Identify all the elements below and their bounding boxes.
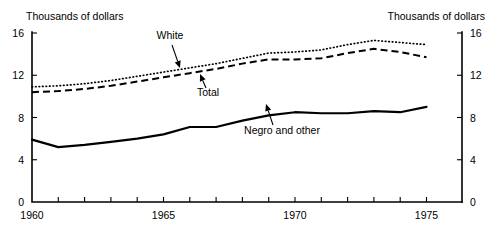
income-line-chart: Thousands of dollars Thousands of dollar… [0, 0, 491, 235]
series-annotation-white: White [157, 29, 184, 41]
chart-svg: 048121604812161960196519701975 WhiteTota… [0, 0, 491, 235]
ticks-group [32, 33, 462, 202]
series-line-negro-and-other [32, 107, 427, 147]
series-group [32, 40, 427, 147]
y-tick-label-right: 4 [470, 154, 476, 166]
x-tick-label: 1960 [20, 209, 44, 221]
y-tick-label-left: 16 [12, 27, 24, 39]
leader-arrowhead-white [175, 60, 181, 68]
y-tick-label-left: 0 [18, 196, 24, 208]
y-tick-label-left: 4 [18, 154, 24, 166]
y-tick-label-left: 12 [12, 69, 24, 81]
leader-arrowhead-negro-and-other [265, 104, 271, 112]
leader-line-white [172, 45, 178, 61]
y-tick-label-left: 8 [18, 112, 24, 124]
series-line-total [32, 49, 427, 92]
y-tick-label-right: 8 [470, 112, 476, 124]
y-tick-label-right: 0 [470, 196, 476, 208]
x-tick-label: 1965 [152, 209, 176, 221]
annotations-group: WhiteTotalNegro and other [157, 29, 321, 136]
series-annotation-negro-and-other: Negro and other [244, 124, 320, 136]
x-tick-label: 1975 [415, 209, 439, 221]
y-tick-label-right: 12 [470, 69, 482, 81]
leader-line-negro-and-other [268, 111, 273, 125]
x-tick-label: 1970 [283, 209, 307, 221]
y-tick-label-right: 16 [470, 27, 482, 39]
series-annotation-total: Total [197, 86, 219, 98]
series-line-white [32, 40, 427, 86]
